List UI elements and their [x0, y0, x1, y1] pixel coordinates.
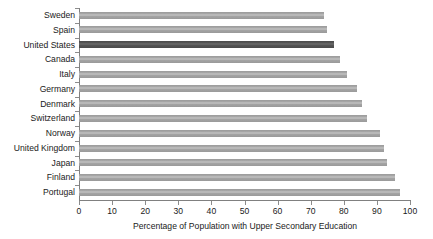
y-axis-label-portugal: Portugal — [0, 185, 75, 200]
bar-row — [79, 111, 410, 126]
bar-portugal — [79, 189, 400, 196]
y-axis-label-sweden: Sweden — [0, 8, 75, 23]
y-axis-category-labels: SwedenSpainUnited StatesCanadaItalyGerma… — [0, 8, 75, 200]
bar-japan — [79, 159, 387, 166]
x-axis-tick-label: 20 — [130, 206, 160, 216]
y-axis-tick — [75, 111, 79, 112]
y-axis-label-germany: Germany — [0, 82, 75, 97]
bar-row — [79, 141, 410, 156]
bar-row — [79, 67, 410, 82]
x-axis-tick — [410, 201, 411, 205]
y-axis-label-italy: Italy — [0, 67, 75, 82]
x-axis-tick — [245, 201, 246, 205]
y-axis-label-denmark: Denmark — [0, 97, 75, 112]
bar-row — [79, 23, 410, 38]
x-axis-tick-label: 70 — [296, 206, 326, 216]
x-axis-tick-label: 100 — [395, 206, 425, 216]
x-axis-tick-label: 90 — [362, 206, 392, 216]
bar-united-states — [79, 41, 334, 48]
bar-row — [79, 52, 410, 67]
y-axis-label-canada: Canada — [0, 52, 75, 67]
bar-united-kingdom — [79, 145, 384, 152]
bar-row — [79, 97, 410, 112]
bar-switzerland — [79, 115, 367, 122]
x-axis-tick-label: 50 — [230, 206, 260, 216]
x-axis-tick — [377, 201, 378, 205]
bar-germany — [79, 85, 357, 92]
bar-spain — [79, 26, 327, 33]
y-axis-label-switzerland: Switzerland — [0, 111, 75, 126]
x-axis-tick-label: 60 — [263, 206, 293, 216]
x-axis-title: Percentage of Population with Upper Seco… — [79, 221, 411, 231]
x-axis-tick — [112, 201, 113, 205]
bar-canada — [79, 56, 340, 63]
y-axis-label-norway: Norway — [0, 126, 75, 141]
x-axis-tick-label: 40 — [196, 206, 226, 216]
bar-row — [79, 185, 410, 200]
x-axis-tick — [211, 201, 212, 205]
bar-row — [79, 8, 410, 23]
bar-sweden — [79, 12, 324, 19]
bar-row — [79, 170, 410, 185]
y-axis-tick — [75, 156, 79, 157]
x-axis-tick-label: 80 — [329, 206, 359, 216]
x-axis-tick — [178, 201, 179, 205]
y-axis-tick — [75, 141, 79, 142]
bar-denmark — [79, 100, 362, 107]
x-axis-tick-label: 10 — [97, 206, 127, 216]
bar-row — [79, 38, 410, 53]
x-axis-tick — [145, 201, 146, 205]
bar-italy — [79, 71, 347, 78]
y-axis-tick — [75, 97, 79, 98]
y-axis-tick — [75, 23, 79, 24]
bar-row — [79, 82, 410, 97]
plot-area — [79, 8, 410, 200]
bar-chart: SwedenSpainUnited StatesCanadaItalyGerma… — [0, 0, 433, 239]
y-axis-label-japan: Japan — [0, 156, 75, 171]
bar-norway — [79, 130, 380, 137]
y-axis-tick — [75, 170, 79, 171]
bar-row — [79, 156, 410, 171]
y-axis-label-finland: Finland — [0, 170, 75, 185]
y-axis-label-united-kingdom: United Kingdom — [0, 141, 75, 156]
y-axis-tick — [75, 185, 79, 186]
y-axis-label-united-states: United States — [0, 38, 75, 53]
x-axis-tick-label: 0 — [64, 206, 94, 216]
bar-row — [79, 126, 410, 141]
x-axis-tick-label: 30 — [163, 206, 193, 216]
y-axis-tick — [75, 82, 79, 83]
y-axis-label-spain: Spain — [0, 23, 75, 38]
x-axis-tick — [311, 201, 312, 205]
y-axis-tick — [75, 8, 79, 9]
y-axis-tick — [75, 67, 79, 68]
bar-finland — [79, 174, 395, 181]
y-axis-tick — [75, 126, 79, 127]
x-axis-tick — [278, 201, 279, 205]
x-axis-tick — [79, 201, 80, 205]
x-axis-tick — [344, 201, 345, 205]
y-axis-tick — [75, 38, 79, 39]
y-axis-tick — [75, 52, 79, 53]
